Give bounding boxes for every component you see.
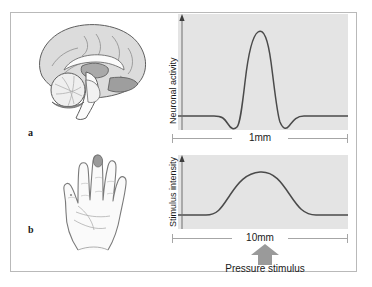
scale-bar-end-tick [347,134,348,143]
pressure-stimulus-caption: Pressure stimulus [180,263,350,275]
y-axis-neuronal-activity [177,14,187,130]
panel-label-b: b [28,225,34,235]
chart-neuronal-activity: Neuronal activity [168,14,348,130]
plot-area-stimulus-intensity [178,155,348,229]
figure-root: a b [0,0,372,287]
hand-illustration [48,146,148,254]
scale-bar-line-right [288,238,348,239]
up-arrow-icon [250,243,280,265]
y-axis-label-stimulus-intensity: Stimulus intensity [168,157,178,227]
chart-stimulus-intensity: Stimulus intensity [168,155,348,229]
scale-bar-end-tick [347,234,348,243]
y-axis-stimulus-intensity [177,155,187,229]
brain-illustration [24,14,154,124]
y-axis-label-neuronal-activity: Neuronal activity [168,57,178,124]
scale-bar-1mm: 1mm [172,131,348,145]
plot-area-neuronal-activity [178,14,348,130]
panel-label-a: a [28,128,33,138]
scale-bar-line-right [288,138,348,139]
